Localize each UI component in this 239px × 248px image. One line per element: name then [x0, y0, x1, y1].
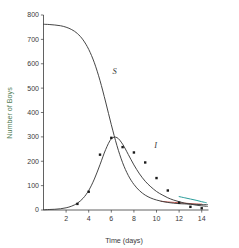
data-point [178, 201, 180, 203]
data-point [133, 151, 135, 153]
data-point [201, 207, 203, 209]
y-tick-label: 200 [27, 158, 39, 165]
y-tick-label: 600 [27, 60, 39, 67]
y-tick-label: 300 [27, 133, 39, 140]
data-point [121, 146, 123, 148]
infected-data-points [76, 137, 203, 210]
susceptible-curve-label: S [112, 66, 117, 76]
x-axis-title: Time (days) [105, 236, 143, 245]
data-point [155, 177, 157, 179]
data-point [189, 206, 191, 208]
data-point [99, 153, 101, 155]
susceptible-curve [44, 24, 208, 204]
x-tick-label: 10 [153, 215, 161, 222]
x-axis-tick-labels: 2468101214 [64, 215, 206, 222]
infected-curve [44, 137, 208, 210]
x-tick-label: 4 [87, 215, 91, 222]
y-tick-label: 800 [27, 11, 39, 18]
x-tick-label: 12 [175, 215, 183, 222]
y-tick-label: 400 [27, 109, 39, 116]
chart-plot-area: 0100200300400500600700800 2468101214 S I… [0, 0, 239, 248]
infected-curve-label: I [153, 140, 158, 150]
data-point [88, 191, 90, 193]
x-tick-label: 14 [198, 215, 206, 222]
y-tick-label: 0 [35, 206, 39, 213]
data-point [110, 137, 112, 139]
data-point [144, 161, 146, 163]
x-tick-label: 6 [109, 215, 113, 222]
data-point [76, 203, 78, 205]
x-tick-label: 8 [132, 215, 136, 222]
y-tick-label: 700 [27, 36, 39, 43]
y-axis-tick-labels: 0100200300400500600700800 [27, 11, 39, 213]
overlay-teal-curve [179, 197, 206, 203]
y-axis-title: Number of Boys [5, 87, 14, 139]
y-tick-label: 500 [27, 85, 39, 92]
sir-model-chart-figure: 0100200300400500600700800 2468101214 S I… [0, 0, 239, 248]
data-point [167, 189, 169, 191]
x-tick-label: 2 [64, 215, 68, 222]
y-tick-label: 100 [27, 182, 39, 189]
